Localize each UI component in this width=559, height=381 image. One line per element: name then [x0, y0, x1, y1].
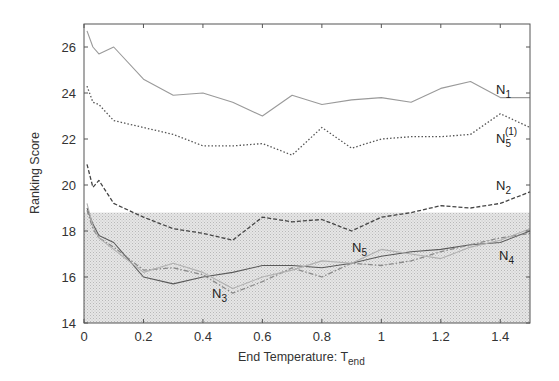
x-axis-label: End Temperature: Tend — [238, 350, 365, 367]
x-tick-label: 0.6 — [253, 329, 271, 344]
y-tick-label: 22 — [62, 132, 76, 147]
series-n1-line — [87, 31, 530, 116]
x-axis-label-subscript: end — [348, 356, 365, 367]
series-label-n51: N5(1) — [496, 126, 517, 149]
y-tick-label: 16 — [62, 270, 76, 285]
x-tick-label: 0.2 — [134, 329, 152, 344]
y-tick-label: 14 — [62, 316, 76, 331]
x-tick-label: 1.2 — [432, 329, 450, 344]
x-tick-label: 1 — [378, 329, 385, 344]
series-n51-line — [87, 86, 530, 155]
y-tick-label: 20 — [62, 178, 76, 193]
y-axis-label: Ranking Score — [28, 132, 42, 214]
x-tick-label: 0.4 — [194, 329, 212, 344]
shaded-region — [84, 213, 530, 323]
y-tick-label: 18 — [62, 224, 76, 239]
line-chart: 00.20.40.60.811.21.414161820222426 N1N5(… — [0, 0, 559, 381]
x-tick-label: 0 — [80, 329, 87, 344]
x-tick-label: 1.4 — [491, 329, 509, 344]
y-tick-label: 24 — [62, 86, 76, 101]
x-tick-label: 0.8 — [313, 329, 331, 344]
series-label-n2: N2 — [496, 178, 511, 196]
x-axis-label-main: End Temperature: T — [238, 350, 348, 364]
y-tick-label: 26 — [62, 40, 76, 55]
